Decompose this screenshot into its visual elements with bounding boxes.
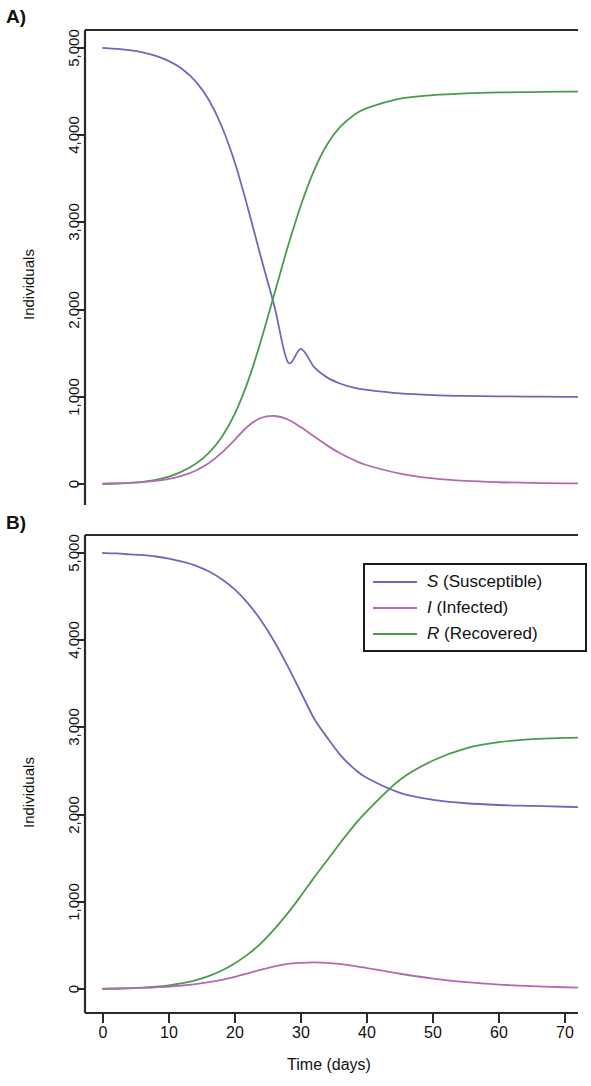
xtick-40: 40 [347,1024,387,1042]
panel-a-axes [77,30,578,505]
xtick-70: 70 [545,1024,585,1042]
legend-name-r: (Recovered) [439,624,537,643]
xtick-20: 20 [215,1024,255,1042]
legend-label-recovered: R (Recovered) [427,624,538,644]
legend-name-s: (Susceptible) [438,572,542,591]
xtick-50: 50 [413,1024,453,1042]
panel-a-plot [0,0,578,505]
legend-item-infected: I (Infected) [373,595,508,621]
legend-line-icon-susceptible [373,581,417,583]
legend-symbol-r: R [427,624,439,643]
legend-label-infected: I (Infected) [427,598,508,618]
legend-line-icon-recovered [373,633,417,635]
xtick-10: 10 [149,1024,189,1042]
xtick-30: 30 [281,1024,321,1042]
xtick-60: 60 [479,1024,519,1042]
xtick-0: 0 [83,1024,123,1042]
panel-a-curves [103,48,578,484]
legend: S (Susceptible) I (Infected) R (Recovere… [363,563,587,652]
legend-line-icon-infected [373,607,417,609]
legend-label-susceptible: S (Susceptible) [427,572,542,592]
legend-name-i: (Infected) [432,598,509,617]
legend-item-susceptible: S (Susceptible) [373,569,542,595]
legend-item-recovered: R (Recovered) [373,621,538,647]
legend-symbol-s: S [427,572,438,591]
x-axis-title: Time (days) [40,1056,591,1074]
